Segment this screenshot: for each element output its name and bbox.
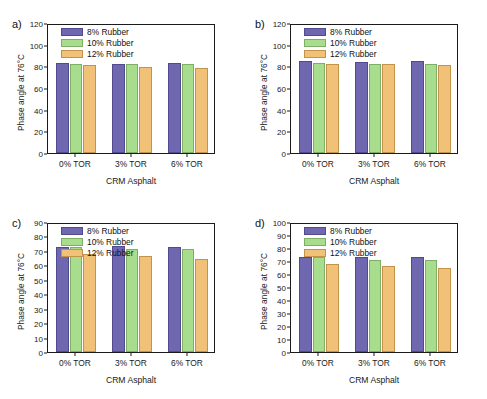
bar xyxy=(411,61,424,153)
bar xyxy=(139,256,152,352)
legend: 8% Rubber10% Rubber12% Rubber xyxy=(304,27,377,59)
legend-swatch-icon xyxy=(61,39,83,48)
bar xyxy=(56,63,69,153)
y-axis-tick-mark xyxy=(44,154,47,155)
bar xyxy=(355,257,368,352)
legend-label: 10% Rubber xyxy=(87,237,134,247)
legend-swatch-icon xyxy=(61,227,83,236)
y-axis-tick-mark xyxy=(287,249,290,250)
legend-swatch-icon xyxy=(61,28,83,37)
legend-swatch-icon xyxy=(61,50,83,59)
bar xyxy=(139,67,152,153)
y-axis-tick-mark xyxy=(44,324,47,325)
legend-label: 8% Rubber xyxy=(87,226,129,236)
panel-a: a)0204060801001200% TOR3% TOR6% TORPhase… xyxy=(0,0,243,199)
legend-item[interactable]: 10% Rubber xyxy=(61,38,134,48)
y-axis-tick-mark xyxy=(44,280,47,281)
y-axis-tick-mark xyxy=(287,132,290,133)
panel-b: b)0204060801001200% TOR3% TOR6% TORPhase… xyxy=(243,0,487,199)
legend-label: 12% Rubber xyxy=(87,248,134,258)
bar xyxy=(326,64,339,153)
y-axis-tick-mark xyxy=(44,24,47,25)
legend-item[interactable]: 12% Rubber xyxy=(304,248,377,258)
x-axis-tick-mark xyxy=(430,154,431,157)
bar xyxy=(313,63,326,153)
legend-item[interactable]: 10% Rubber xyxy=(304,237,377,247)
y-axis-tick-mark xyxy=(287,24,290,25)
bar xyxy=(369,260,382,352)
legend-label: 10% Rubber xyxy=(87,38,134,48)
bar xyxy=(56,247,69,352)
x-axis-tick-mark xyxy=(75,154,76,157)
figure-grid: a)0204060801001200% TOR3% TOR6% TORPhase… xyxy=(0,0,487,399)
y-axis-tick-mark xyxy=(44,251,47,252)
bar xyxy=(369,64,382,153)
legend: 8% Rubber10% Rubber12% Rubber xyxy=(304,226,377,258)
y-axis-tick-mark xyxy=(287,340,290,341)
bar xyxy=(438,65,451,153)
bar xyxy=(126,249,139,352)
panel-label: b) xyxy=(255,18,265,30)
y-axis-tick-mark xyxy=(287,288,290,289)
legend-swatch-icon xyxy=(304,50,326,59)
y-axis-tick-mark xyxy=(44,237,47,238)
bar xyxy=(299,61,312,153)
y-axis-tick-mark xyxy=(287,275,290,276)
bar xyxy=(168,247,181,352)
legend-label: 8% Rubber xyxy=(330,226,372,236)
bar xyxy=(425,64,438,153)
legend-item[interactable]: 8% Rubber xyxy=(61,226,134,236)
legend-item[interactable]: 8% Rubber xyxy=(61,27,134,37)
y-axis-tick-mark xyxy=(44,338,47,339)
y-axis-title: Phase angle at 76°C xyxy=(17,54,26,131)
legend-label: 12% Rubber xyxy=(330,248,377,258)
legend-label: 10% Rubber xyxy=(330,237,377,247)
y-axis-title: Phase angle at 76°C xyxy=(260,253,269,330)
y-axis-tick-mark xyxy=(44,295,47,296)
panel-label: c) xyxy=(12,217,21,229)
legend-item[interactable]: 8% Rubber xyxy=(304,226,377,236)
y-axis-title: Phase angle at 76°C xyxy=(17,253,26,330)
x-axis-tick-mark xyxy=(374,353,375,356)
legend-item[interactable]: 12% Rubber xyxy=(304,49,377,59)
x-axis-tick-mark xyxy=(318,353,319,356)
y-axis-tick-mark xyxy=(287,353,290,354)
y-axis-tick-mark xyxy=(44,89,47,90)
legend-item[interactable]: 12% Rubber xyxy=(61,248,134,258)
legend-label: 12% Rubber xyxy=(330,49,377,59)
y-axis-tick-mark xyxy=(44,266,47,267)
y-axis-tick-mark xyxy=(44,223,47,224)
bar xyxy=(168,63,181,153)
legend-label: 12% Rubber xyxy=(87,49,134,59)
y-axis-tick-mark xyxy=(287,262,290,263)
bar xyxy=(83,65,96,153)
panel-label: a) xyxy=(12,18,22,30)
legend-item[interactable]: 12% Rubber xyxy=(61,49,134,59)
y-axis-title: Phase angle at 76°C xyxy=(260,54,269,131)
bar xyxy=(126,64,139,153)
bar xyxy=(83,254,96,353)
bar xyxy=(313,257,326,352)
bar xyxy=(382,64,395,153)
bar xyxy=(195,68,208,153)
y-axis-tick-mark xyxy=(287,327,290,328)
bar xyxy=(382,266,395,352)
y-axis-tick-mark xyxy=(287,314,290,315)
legend-item[interactable]: 10% Rubber xyxy=(61,237,134,247)
y-axis-tick-mark xyxy=(287,45,290,46)
legend-item[interactable]: 10% Rubber xyxy=(304,38,377,48)
legend-item[interactable]: 8% Rubber xyxy=(304,27,377,37)
x-axis-tick-mark xyxy=(187,353,188,356)
panel-c: c)01020304050607080900% TOR3% TOR6% TORP… xyxy=(0,199,243,399)
legend-swatch-icon xyxy=(304,249,326,258)
bar xyxy=(182,249,195,352)
x-axis-tick-mark xyxy=(318,154,319,157)
bar xyxy=(112,64,125,153)
legend-swatch-icon xyxy=(304,238,326,247)
x-axis-tick-mark xyxy=(430,353,431,356)
y-axis-tick-mark xyxy=(287,67,290,68)
panel-label: d) xyxy=(255,217,265,229)
panel-d: d)01020304050607080901000% TOR3% TOR6% T… xyxy=(243,199,487,399)
x-axis-tick-mark xyxy=(187,154,188,157)
y-axis-tick-mark xyxy=(287,223,290,224)
